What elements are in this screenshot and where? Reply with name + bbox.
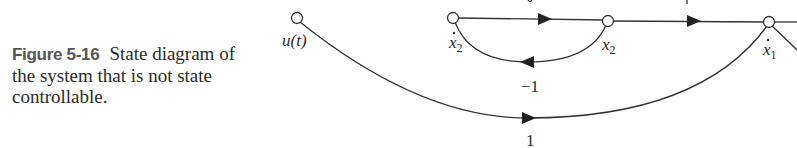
- label-x2dot: x2: [448, 33, 463, 55]
- node-u: [292, 13, 303, 24]
- cutoff-gain-label-1: [528, 0, 532, 2]
- label-u: u(t): [282, 31, 307, 50]
- arrow-icon: [538, 13, 552, 25]
- signal-flow-graph: u(t) x2 x2 x1 −1 1: [0, 0, 797, 148]
- edge-x1dot-loop: [772, 26, 797, 50]
- node-x2: [603, 16, 614, 27]
- edge-input: [300, 22, 767, 118]
- edge-feedback: [455, 22, 606, 62]
- arrow-icon: [520, 56, 534, 68]
- label-x1dot: x1: [762, 40, 777, 62]
- arrow-icon: [687, 15, 701, 27]
- node-x1dot: [764, 17, 775, 28]
- arrow-icon: [522, 112, 536, 124]
- node-x2dot: [448, 13, 459, 24]
- edge-x2dot-x2: [457, 18, 604, 20]
- label-input-gain: 1: [526, 131, 535, 148]
- dot-accent: [767, 39, 769, 41]
- dot-accent: [453, 32, 455, 34]
- label-x2: x2: [601, 35, 616, 57]
- label-feedback-gain: −1: [521, 77, 539, 96]
